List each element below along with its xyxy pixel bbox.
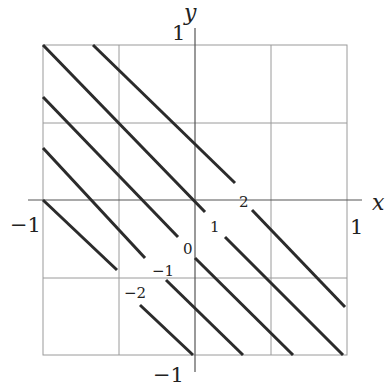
contour-label-1: 1 [210, 218, 220, 236]
x-max-tick: 1 [350, 215, 363, 239]
x-min-tick: −1 [10, 213, 41, 237]
contour-label-2: 2 [239, 193, 249, 211]
y-max-tick: 1 [172, 21, 185, 45]
contour-plot: y x 1 −1 −1 1 2 1 0 −1 −2 [0, 0, 391, 386]
y-min-tick: −1 [153, 363, 184, 386]
level-line-0 [43, 97, 293, 355]
contour-label-minus-2: −2 [124, 284, 146, 302]
level-line-minus-1 [43, 148, 243, 355]
x-axis-label: x [372, 190, 385, 215]
contour-label-minus-1: −1 [152, 262, 174, 280]
contour-label-0: 0 [183, 240, 193, 258]
level-line-2 [93, 45, 345, 307]
